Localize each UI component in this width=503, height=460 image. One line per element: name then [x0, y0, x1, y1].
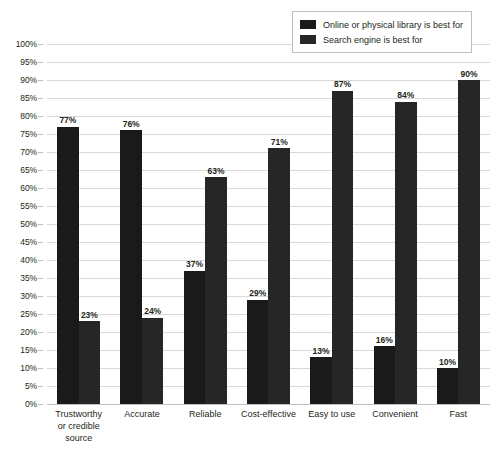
bar: [268, 148, 290, 404]
y-axis-tick-mark: [38, 404, 43, 405]
bar-group: 13%87%: [300, 44, 363, 404]
bar-value-label: 84%: [397, 91, 414, 100]
y-axis-tick-label: 55%: [20, 201, 37, 211]
y-axis-tick-label: 35%: [20, 273, 37, 283]
x-axis-category-label: Cost-effective: [237, 408, 300, 444]
bar: [395, 102, 417, 404]
x-axis-category-label: Accurate: [110, 408, 173, 444]
bar-value-label: 23%: [81, 311, 98, 320]
x-axis-category-label: Easy to use: [300, 408, 363, 444]
y-axis-tick-mark: [38, 62, 43, 63]
y-axis-tick-mark: [38, 224, 43, 225]
bar-value-label: 90%: [461, 70, 478, 79]
bar-group: 77%23%: [47, 44, 110, 404]
y-axis-tick-mark: [38, 350, 43, 351]
y-axis-tick-mark: [38, 80, 43, 81]
y-axis-tick-mark: [38, 386, 43, 387]
bar: [310, 357, 332, 404]
y-axis-tick-mark: [38, 98, 43, 99]
chart-legend: Online or physical library is best for S…: [292, 11, 472, 53]
x-axis: Trustworthyor crediblesourceAccurateReli…: [47, 408, 490, 444]
x-axis-category-label: Fast: [427, 408, 490, 444]
legend-item-library: Online or physical library is best for: [300, 17, 463, 32]
bar: [458, 80, 480, 404]
y-axis-tick-label: 100%: [16, 39, 37, 49]
y-axis-tick-label: 25%: [20, 309, 37, 319]
bar-column: 77%: [57, 44, 79, 404]
bar: [247, 300, 269, 404]
bar-group: 29%71%: [237, 44, 300, 404]
bar-column: 63%: [205, 44, 227, 404]
bar-column: 76%: [120, 44, 142, 404]
x-axis-category-label: Reliable: [174, 408, 237, 444]
bar-pair: 13%87%: [310, 44, 353, 404]
bar-groups: 77%23%76%24%37%63%29%71%13%87%16%84%10%9…: [47, 44, 490, 404]
y-axis-tick-mark: [38, 116, 43, 117]
bar: [205, 177, 227, 404]
y-axis-tick-mark: [38, 260, 43, 261]
y-axis-tick-mark: [38, 314, 43, 315]
bar-value-label: 87%: [334, 80, 351, 89]
bar-column: 84%: [395, 44, 417, 404]
bar-column: 16%: [374, 44, 396, 404]
legend-item-search-engine: Search engine is best for: [300, 32, 463, 47]
bar-value-label: 76%: [123, 120, 140, 129]
y-axis-tick-label: 30%: [20, 291, 37, 301]
y-axis-tick-label: 70%: [20, 147, 37, 157]
y-axis-tick-label: 15%: [20, 345, 37, 355]
bar-value-label: 77%: [59, 116, 76, 125]
bar-value-label: 71%: [271, 138, 288, 147]
bar-group: 76%24%: [110, 44, 173, 404]
bar-column: 10%: [437, 44, 459, 404]
y-axis-tick-mark: [38, 278, 43, 279]
bar-value-label: 29%: [249, 289, 266, 298]
y-axis-tick-mark: [38, 134, 43, 135]
axis-baseline: [47, 404, 490, 405]
y-axis-tick-mark: [38, 296, 43, 297]
y-axis-tick-label: 65%: [20, 165, 37, 175]
bar-group: 16%84%: [363, 44, 426, 404]
bar-value-label: 37%: [186, 260, 203, 269]
bar-pair: 16%84%: [374, 44, 417, 404]
bar-column: 29%: [247, 44, 269, 404]
bar: [79, 321, 101, 404]
legend-label-library: Online or physical library is best for: [323, 20, 463, 30]
bar-column: 37%: [184, 44, 206, 404]
y-axis-tick-label: 40%: [20, 255, 37, 265]
x-axis-category-label: Trustworthyor crediblesource: [47, 408, 110, 444]
y-axis-tick-label: 90%: [20, 75, 37, 85]
bar-value-label: 24%: [144, 307, 161, 316]
y-axis: 0%5%10%15%20%25%30%35%40%45%50%55%60%65%…: [0, 44, 43, 404]
bar-pair: 10%90%: [437, 44, 480, 404]
bar-chart: 0%5%10%15%20%25%30%35%40%45%50%55%60%65%…: [0, 0, 503, 460]
bar-pair: 76%24%: [120, 44, 163, 404]
legend-swatch-library: [300, 20, 316, 29]
bar-pair: 29%71%: [247, 44, 290, 404]
y-axis-tick-mark: [38, 152, 43, 153]
bar-value-label: 10%: [439, 358, 456, 367]
bar-pair: 77%23%: [57, 44, 100, 404]
y-axis-tick-label: 75%: [20, 129, 37, 139]
bar: [120, 130, 142, 404]
legend-label-search-engine: Search engine is best for: [323, 35, 423, 45]
y-axis-tick-mark: [38, 188, 43, 189]
bar-column: 87%: [332, 44, 354, 404]
y-axis-tick-mark: [38, 332, 43, 333]
y-axis-tick-mark: [38, 170, 43, 171]
y-axis-tick-mark: [38, 242, 43, 243]
y-axis-tick-label: 85%: [20, 93, 37, 103]
bar-value-label: 63%: [207, 167, 224, 176]
y-axis-tick-mark: [38, 44, 43, 45]
y-axis-tick-label: 5%: [25, 381, 37, 391]
bar: [57, 127, 79, 404]
legend-swatch-search-engine: [300, 35, 316, 44]
bar-value-label: 16%: [376, 336, 393, 345]
bar-value-label: 13%: [313, 347, 330, 356]
bar: [332, 91, 354, 404]
y-axis-tick-label: 10%: [20, 363, 37, 373]
bar: [374, 346, 396, 404]
bar-group: 37%63%: [174, 44, 237, 404]
bar-group: 10%90%: [427, 44, 490, 404]
y-axis-tick-label: 80%: [20, 111, 37, 121]
y-axis-tick-mark: [38, 206, 43, 207]
